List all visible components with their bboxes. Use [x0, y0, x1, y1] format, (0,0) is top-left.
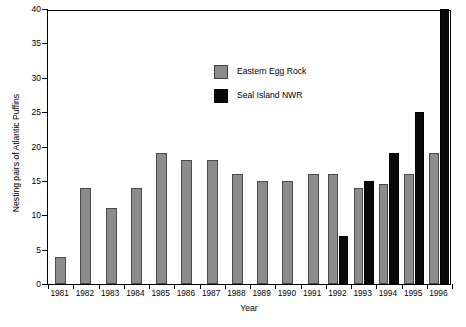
- y-tick-label: 40: [32, 5, 41, 14]
- bar-seal-island-nwr-1992: [339, 236, 349, 284]
- y-tick-mark: [42, 43, 48, 44]
- y-tick-mark: [42, 250, 48, 251]
- bar-eastern-egg-rock-1991: [308, 174, 319, 284]
- y-tick-label: 10: [32, 211, 41, 220]
- bar-eastern-egg-rock-1990: [282, 181, 293, 284]
- y-tick-label: 15: [32, 176, 41, 185]
- bar-eastern-egg-rock-1992: [328, 174, 338, 284]
- y-tick-mark: [42, 9, 48, 10]
- legend-item-eastern-egg-rock: Eastern Egg Rock: [214, 63, 306, 80]
- bar-eastern-egg-rock-1983: [106, 208, 117, 284]
- x-axis-title: Year: [47, 303, 451, 313]
- bar-eastern-egg-rock-1984: [131, 188, 142, 284]
- plot-area: 0510152025303540: [47, 10, 451, 285]
- bar-seal-island-nwr-1993: [364, 181, 374, 284]
- bar-eastern-egg-rock-1986: [181, 160, 192, 284]
- legend-label: Eastern Egg Rock: [237, 67, 306, 76]
- y-tick-label: 30: [32, 73, 41, 82]
- y-tick-mark: [42, 215, 48, 216]
- bar-eastern-egg-rock-1994: [379, 184, 389, 284]
- black-swatch-icon: [214, 89, 228, 103]
- y-tick-mark: [42, 181, 48, 182]
- y-tick-label: 25: [32, 108, 41, 117]
- y-tick-label: 5: [36, 245, 41, 254]
- x-tick-label-1996: 1996: [418, 289, 458, 298]
- y-tick-label: 0: [36, 280, 41, 289]
- y-tick-label: 20: [32, 142, 41, 151]
- bar-eastern-egg-rock-1981: [55, 257, 66, 285]
- bar-eastern-egg-rock-1993: [354, 188, 364, 284]
- bar-seal-island-nwr-1995: [415, 112, 425, 284]
- chart-figure: 0510152025303540 19811982198319841985198…: [0, 0, 466, 327]
- bar-eastern-egg-rock-1985: [156, 153, 167, 284]
- bar-eastern-egg-rock-1995: [404, 174, 414, 284]
- y-tick-mark: [42, 112, 48, 113]
- bar-eastern-egg-rock-1989: [257, 181, 268, 284]
- y-tick-mark: [42, 147, 48, 148]
- y-axis-title: Nesting pairs of Atlantic Puffins: [11, 53, 21, 253]
- bar-seal-island-nwr-1996: [440, 9, 450, 284]
- legend-item-seal-island-nwr: Seal Island NWR: [214, 87, 306, 104]
- y-tick-label: 35: [32, 39, 41, 48]
- gray-swatch-icon: [214, 65, 228, 79]
- y-tick-mark: [42, 78, 48, 79]
- bar-eastern-egg-rock-1987: [207, 160, 218, 284]
- bar-seal-island-nwr-1994: [389, 153, 399, 284]
- legend-label: Seal Island NWR: [237, 91, 302, 100]
- bar-eastern-egg-rock-1982: [80, 188, 91, 284]
- chart-legend: Eastern Egg Rock Seal Island NWR: [214, 63, 306, 111]
- bar-eastern-egg-rock-1996: [429, 153, 439, 284]
- bar-eastern-egg-rock-1988: [232, 174, 243, 284]
